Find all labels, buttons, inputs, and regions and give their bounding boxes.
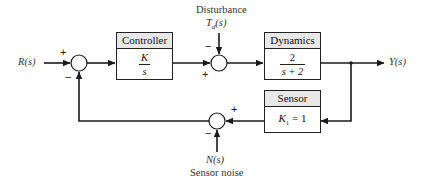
branch-point <box>349 61 353 65</box>
sum2-plus-sign: + <box>202 69 208 80</box>
dynamics-title: Dynamics <box>265 33 320 49</box>
dynamics-transfer-function: 2 s + 2 <box>280 52 306 77</box>
summing-junction-disturbance <box>211 55 227 71</box>
summing-junction-input <box>71 55 87 71</box>
sum3-minus-sign: − <box>205 128 211 139</box>
dynamics-numerator: 2 <box>288 52 297 63</box>
output-label: Y(s) <box>389 57 406 68</box>
controller-numerator: K <box>139 52 150 63</box>
disturbance-symbol: Td(s) <box>206 18 226 31</box>
sum1-minus-sign: − <box>65 72 71 83</box>
sum2-minus-sign: − <box>205 41 211 52</box>
summing-junction-noise <box>209 113 225 129</box>
disturbance-caption: Disturbance <box>196 5 247 16</box>
controller-transfer-function: K s <box>139 52 150 77</box>
noise-symbol: N(s) <box>206 155 224 166</box>
noise-caption: Sensor noise <box>190 168 243 179</box>
feedback-to-sensor-arrow <box>321 63 351 121</box>
sensor-title: Sensor <box>265 91 320 107</box>
input-label: R(s) <box>18 57 36 68</box>
fraction-bar <box>139 64 150 65</box>
controller-title: Controller <box>117 33 172 49</box>
controller-denominator: s <box>140 66 148 77</box>
dynamics-denominator: s + 2 <box>280 66 306 77</box>
sum1-plus-sign: + <box>60 47 66 58</box>
controller-block: Controller K s <box>116 32 173 80</box>
fraction-bar <box>280 64 306 65</box>
block-diagram: R(s) + − Controller K s Disturbance Td(s… <box>0 0 422 181</box>
sum3-plus-sign: + <box>231 104 237 115</box>
dynamics-block: Dynamics 2 s + 2 <box>264 32 321 80</box>
sensor-block: Sensor K1 = 1 <box>264 90 321 133</box>
sensor-gain: K1 = 1 <box>278 112 306 127</box>
